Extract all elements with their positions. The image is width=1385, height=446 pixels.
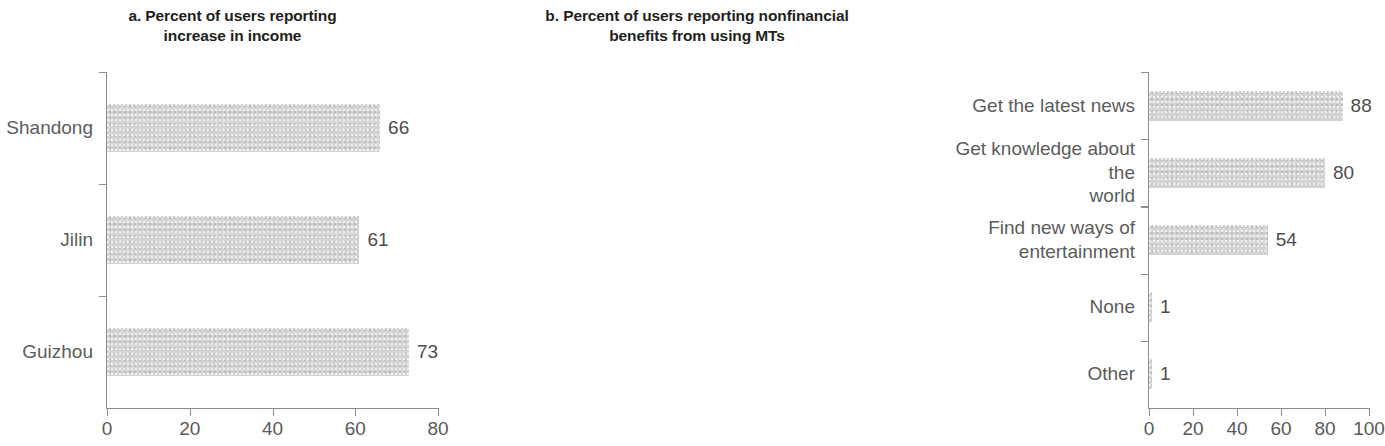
plot-area-b: 88Get the latest news80Get knowledge abo… [1149,72,1369,408]
x-axis-tick-label: 0 [1144,418,1155,440]
bar-value-label: 80 [1333,162,1354,184]
panel-a-title-line1: a. Percent of users reporting [70,6,395,26]
x-axis-tick-label: 60 [1270,418,1291,440]
category-label: Other [925,363,1135,387]
plot-area-a: 66Shandong61Jilin73Guizhou020406080 [107,72,438,408]
bar [1149,292,1152,322]
bar-value-label: 54 [1276,229,1297,251]
y-axis-tick [99,72,107,73]
x-axis-tick-label: 40 [262,418,283,440]
panel-a-title: a. Percent of users reporting increase i… [0,6,465,46]
category-label: None [925,295,1135,319]
x-axis-tick-label: 60 [345,418,366,440]
panel-b-title-line2: benefits from using MTs [483,26,911,46]
bar [107,216,359,264]
bar-value-label: 88 [1351,95,1372,117]
y-axis-tick [1141,139,1149,140]
y-axis-tick [99,296,107,297]
x-axis-tick [107,408,108,416]
x-axis-b [1148,408,1370,409]
x-axis-tick-label: 20 [179,418,200,440]
bar-value-label: 73 [417,341,438,363]
category-label: Shandong [0,116,93,140]
x-axis-tick-label: 100 [1353,418,1385,440]
bar [1149,91,1343,121]
bar [107,328,409,376]
bar-value-label: 61 [367,229,388,251]
bar [107,104,380,152]
panel-a-title-line2: increase in income [70,26,395,46]
y-axis-tick [1141,341,1149,342]
x-axis-tick-label: 20 [1182,418,1203,440]
panel-b-title-line1: b. Percent of users reporting nonfinanci… [483,6,911,26]
x-axis-tick [1149,408,1150,416]
bar [1149,359,1152,389]
y-axis-tick [1141,274,1149,275]
x-axis-tick-label: 80 [427,418,448,440]
x-axis-tick-label: 0 [102,418,113,440]
bar [1149,158,1325,188]
x-axis-tick [273,408,274,416]
y-axis-tick [99,184,107,185]
panel-b: b. Percent of users reporting nonfinanci… [465,0,929,446]
x-axis-tick-label: 80 [1314,418,1335,440]
bar-value-label: 66 [388,117,409,139]
category-label: Jilin [0,228,93,252]
bar-value-label: 1 [1160,296,1171,318]
category-label: Get the latest news [925,94,1135,118]
x-axis-tick [438,408,439,416]
category-label: Find new ways of entertainment [925,216,1135,264]
x-axis-tick [355,408,356,416]
x-axis-tick-label: 40 [1226,418,1247,440]
x-axis-tick [1325,408,1326,416]
category-label: Guizhou [0,340,93,364]
y-axis-tick [1141,72,1149,73]
x-axis-tick [1193,408,1194,416]
x-axis-tick [1369,408,1370,416]
panel-b-title: b. Percent of users reporting nonfinanci… [465,6,929,46]
y-axis-tick [1141,206,1149,207]
x-axis-tick [190,408,191,416]
bar-value-label: 1 [1160,363,1171,385]
x-axis-tick [1237,408,1238,416]
category-label: Get knowledge about the world [925,137,1135,208]
panel-a: a. Percent of users reporting increase i… [0,0,465,446]
bar [1149,225,1268,255]
x-axis-tick [1281,408,1282,416]
